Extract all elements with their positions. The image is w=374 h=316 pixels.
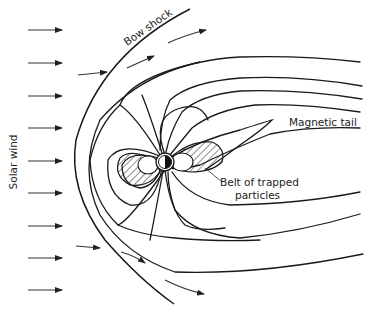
label-belt-line1: Belt of trapped	[220, 176, 299, 188]
flow-arrow-upper-1	[78, 72, 107, 75]
label-bow-shock: Bow shock	[121, 5, 174, 47]
label-belt-line2: particles	[235, 189, 280, 201]
flow-arrow-upper-2	[127, 56, 154, 68]
tail-field-line	[160, 77, 362, 150]
solar-wind-arrows	[28, 30, 62, 290]
dipole-loop	[165, 170, 225, 229]
label-magnetic-tail: Magnetic tail	[289, 116, 357, 128]
label-solar-wind: Solar wind	[7, 135, 19, 190]
flow-arrow-lower-3	[165, 280, 204, 294]
flow-arrow-upper-3	[168, 30, 206, 43]
magnetosphere-diagram: Solar wind Bow shock Magnetic tail Belt …	[0, 0, 374, 316]
earth	[156, 153, 174, 171]
dipole-loop	[142, 95, 162, 153]
belt-left-inner	[138, 156, 158, 174]
flow-arrow-lower-1	[76, 246, 100, 248]
